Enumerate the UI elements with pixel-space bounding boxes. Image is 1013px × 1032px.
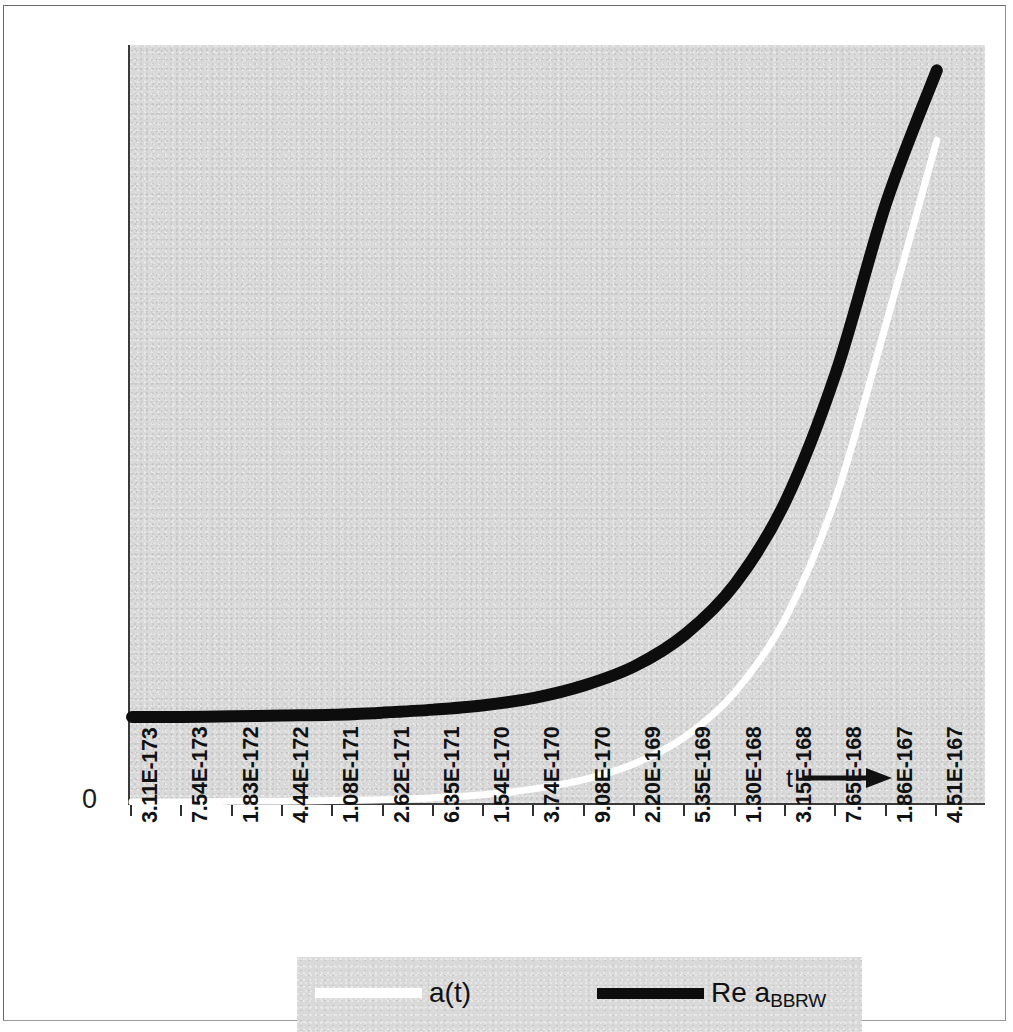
chart-legend: a(t) Re aBBRW	[297, 957, 862, 1032]
legend-entry-re-a-bbrw: Re aBBRW	[597, 979, 826, 1007]
x-axis-tick	[683, 805, 685, 816]
x-axis-tick-label: 1.83E-172	[239, 726, 264, 823]
x-axis-tick-label: 7.54E-173	[188, 726, 213, 823]
x-axis-tick-label: 3.74E-170	[540, 726, 565, 823]
x-axis-tick	[331, 805, 333, 816]
x-axis-tick-label: 3.11E-173	[138, 728, 163, 823]
x-axis-tick-label: 2.62E-171	[390, 726, 415, 823]
x-axis-tick	[633, 805, 635, 816]
x-axis-tick	[834, 805, 836, 816]
x-axis-tick	[885, 805, 887, 816]
plot-curves	[130, 45, 987, 805]
chart-figure: 0 3.11E-1737.54E-1731.83E-1724.44E-1721.…	[0, 0, 1013, 1032]
x-axis-tick-label: 1.30E-168	[742, 726, 767, 823]
x-axis-tick	[432, 805, 434, 816]
plot-area	[128, 45, 985, 805]
x-axis-tick	[482, 805, 484, 816]
legend-swatch-black	[597, 988, 704, 999]
x-axis-tick	[281, 805, 283, 816]
y-axis-zero-label: 0	[82, 786, 97, 813]
x-axis-tick-label: 4.51E-167	[943, 726, 968, 823]
x-axis-tick	[130, 805, 132, 816]
x-axis-tick	[382, 805, 384, 816]
legend-swatch-white	[315, 988, 422, 998]
x-axis-tick	[784, 805, 786, 816]
x-axis-tick	[935, 805, 937, 816]
legend-label-subscript: BBRW	[770, 990, 826, 1011]
t-annotation-label: t	[786, 766, 793, 791]
x-axis-tick	[532, 805, 534, 816]
x-axis-tick	[583, 805, 585, 816]
x-axis-tick-label: 1.08E-171	[339, 726, 364, 823]
legend-label-re-a-bbrw: Re aBBRW	[711, 979, 826, 1007]
x-axis-tick-label: 4.44E-172	[289, 726, 314, 823]
x-axis-tick-label: 5.35E-169	[691, 726, 716, 823]
legend-entry-a-of-t: a(t)	[315, 979, 471, 1007]
x-axis-tick-label: 6.35E-171	[440, 726, 465, 823]
legend-label-base: Re a	[711, 977, 770, 1008]
legend-label-a-of-t: a(t)	[429, 979, 471, 1007]
x-axis-tick-label: 9.08E-170	[591, 726, 616, 823]
x-axis-tick	[180, 805, 182, 816]
x-axis-tick-label: 1.86E-167	[893, 726, 918, 823]
x-axis-tick-label: 1.54E-170	[490, 726, 515, 823]
x-axis-tick	[231, 805, 233, 816]
t-axis-annotation: t	[786, 765, 894, 791]
x-axis-tick	[734, 805, 736, 816]
right-arrow-icon	[802, 765, 894, 791]
x-axis-tick-label: 2.20E-169	[641, 726, 666, 823]
curve-re-a-bbrw	[132, 70, 937, 717]
